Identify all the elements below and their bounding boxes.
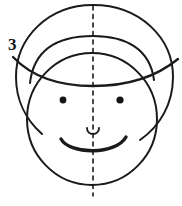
head-outline-circle	[93, 5, 173, 140]
eye-right	[116, 96, 123, 103]
label-3: 3	[8, 36, 17, 53]
face-oval	[27, 53, 157, 185]
figure-canvas: 3	[0, 0, 182, 206]
eye-left	[60, 97, 67, 104]
cap-crown-arc	[30, 36, 154, 83]
face-diagram-svg	[0, 0, 182, 206]
